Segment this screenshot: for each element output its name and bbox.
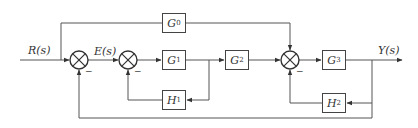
block-g0: G0 (162, 13, 186, 33)
minus-sign-1: − (85, 66, 93, 76)
block-g2-label: G (230, 54, 239, 67)
block-g3: G3 (322, 50, 346, 70)
block-g2-sub: 2 (239, 56, 243, 64)
minus-sign-2: − (134, 66, 142, 76)
block-h1: H1 (162, 90, 186, 110)
block-g2: G2 (225, 50, 249, 70)
block-g3-label: G (327, 54, 336, 67)
block-h2-label: H (327, 97, 337, 110)
output-label-y: Y(s) (378, 44, 400, 57)
diagram-wires (0, 0, 418, 128)
block-h1-sub: 1 (177, 96, 181, 104)
block-g1-sub: 1 (176, 56, 180, 64)
block-g0-label: G (167, 17, 176, 30)
error-label-e: E(s) (94, 45, 116, 58)
block-g3-sub: 3 (336, 56, 340, 64)
minus-sign-3: − (296, 66, 304, 76)
block-diagram: R(s) E(s) Y(s) − − − G0 G1 G2 G3 H1 H2 (0, 0, 418, 128)
block-h2: H2 (322, 93, 346, 113)
block-h2-sub: 2 (337, 99, 341, 107)
block-h1-label: H (167, 94, 177, 107)
input-label-r: R(s) (28, 44, 51, 57)
block-g1: G1 (162, 50, 186, 70)
block-g1-label: G (167, 54, 176, 67)
block-g0-sub: 0 (176, 19, 180, 27)
